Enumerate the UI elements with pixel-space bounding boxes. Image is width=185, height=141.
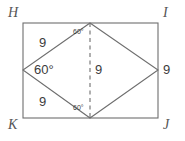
figure-canvas [0, 0, 185, 141]
angle-label-top-vertex: 60° [73, 28, 84, 35]
vertex-label-i: I [163, 6, 168, 20]
angle-label-left-vertex: 60° [34, 63, 54, 76]
vertex-label-h: H [8, 6, 18, 20]
vertex-label-j: J [163, 118, 169, 132]
side-length-label-bottom-left: 9 [39, 95, 46, 108]
diagonal-length-label: 9 [95, 63, 102, 76]
geometry-figure: H I J K 9 9 9 9 60° 60° 60° [0, 0, 185, 141]
angle-label-bottom-vertex: 60° [73, 104, 84, 111]
side-length-label-top-left: 9 [39, 36, 46, 49]
vertex-label-k: K [8, 118, 17, 132]
side-length-label-right: 9 [163, 63, 170, 76]
